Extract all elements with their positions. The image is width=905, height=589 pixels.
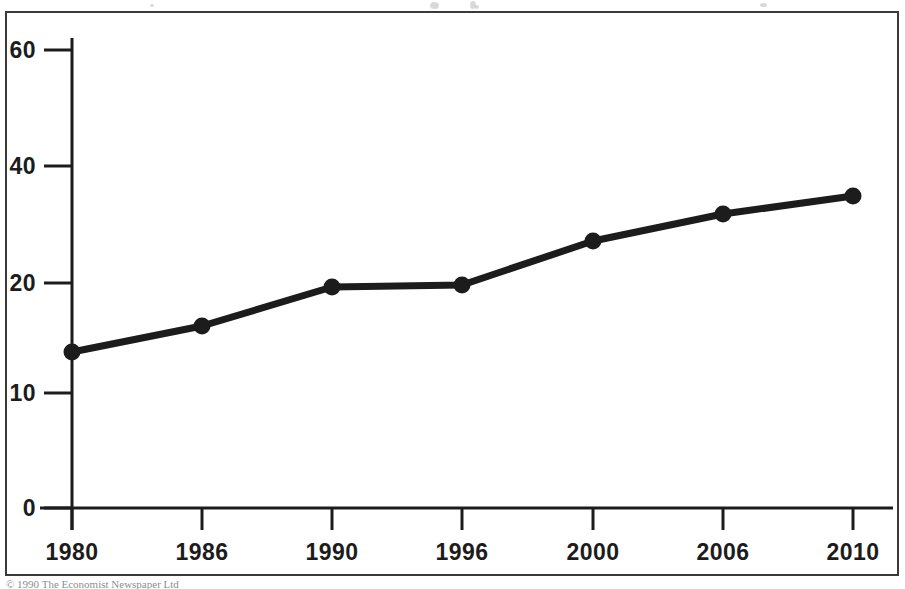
scan-speck (475, 5, 479, 9)
y-axis-tick-label: 60 (0, 37, 36, 64)
x-axis-tick-label: 1980 (45, 539, 98, 566)
x-axis-tick-label: 1996 (435, 539, 488, 566)
scan-speck (760, 3, 767, 7)
y-axis-tick-label: 0 (0, 495, 36, 522)
x-axis-tick-label: 1986 (175, 539, 228, 566)
x-axis-tick-label: 2006 (696, 539, 749, 566)
x-axis-tick-label: 1990 (305, 539, 358, 566)
figure-caption: © 1990 The Economist Newspaper Ltd (6, 578, 646, 589)
x-axis-tick-label: 2000 (566, 539, 619, 566)
chart-figure: 604020100 1980198619901996200020062010 ©… (0, 0, 905, 589)
scan-speck (430, 2, 439, 9)
y-axis-tick-label: 20 (0, 270, 36, 297)
figure-border (5, 11, 899, 576)
x-axis-tick-label: 2010 (826, 539, 879, 566)
scan-speck (150, 4, 154, 7)
y-axis-tick-label: 40 (0, 153, 36, 180)
y-axis-tick-label: 10 (0, 380, 36, 407)
